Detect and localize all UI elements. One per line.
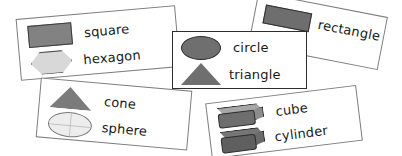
label-rectangle: rectangle	[317, 17, 382, 44]
card-circle-triangle[interactable]: circle triangle	[172, 31, 307, 89]
cube-front-face	[218, 109, 256, 128]
square-icon	[27, 22, 73, 48]
flashcard-scene: square hexagon rectangle circle triangle…	[0, 0, 402, 156]
cube-icon	[217, 102, 265, 128]
rectangle-icon	[263, 4, 313, 32]
circle-icon	[181, 36, 221, 60]
label-circle: circle	[233, 40, 269, 55]
label-sphere: sphere	[101, 120, 148, 139]
label-triangle: triangle	[229, 67, 281, 82]
card-row-circle: circle	[181, 36, 305, 59]
card-row-triangle: triangle	[181, 62, 305, 86]
card-cube-cylinder[interactable]: cube cylinder	[205, 85, 363, 156]
card-square-hexagon[interactable]: square hexagon	[16, 5, 181, 81]
label-cone: cone	[103, 94, 136, 112]
cylinder-icon	[220, 127, 266, 154]
hexagon-icon	[30, 49, 74, 76]
label-square: square	[83, 21, 130, 40]
cylinder-front-face	[220, 134, 257, 154]
card-cone-sphere[interactable]: cone sphere	[36, 77, 193, 150]
triangle-icon	[181, 63, 221, 85]
sphere-icon	[47, 110, 93, 139]
label-cube: cube	[275, 100, 309, 119]
label-cylinder: cylinder	[274, 122, 329, 143]
label-hexagon: hexagon	[83, 47, 142, 67]
cone-icon	[49, 85, 93, 111]
